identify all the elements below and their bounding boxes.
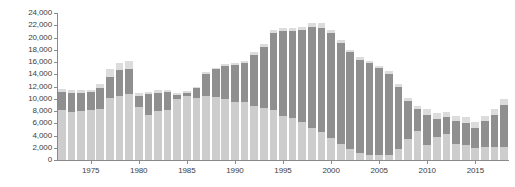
bar-segment-top xyxy=(298,27,306,30)
y-tick-label: 20,000 xyxy=(28,34,52,42)
bar-segment-middle xyxy=(481,121,489,147)
bar-segment-bottom xyxy=(366,155,374,161)
bar-segment-middle xyxy=(116,70,124,96)
bar-segment-middle xyxy=(356,60,364,153)
bar xyxy=(260,44,268,160)
bar xyxy=(87,90,95,160)
y-tick-label: 0 xyxy=(48,156,52,164)
bar-segment-top xyxy=(221,64,229,66)
bar-segment-top xyxy=(404,98,412,100)
x-tick-label: 1995 xyxy=(263,167,303,175)
x-tick-label: 2005 xyxy=(359,167,399,175)
x-tick-label: 1985 xyxy=(167,167,207,175)
bar xyxy=(356,57,364,160)
bar xyxy=(164,90,172,160)
bar-segment-middle xyxy=(145,94,153,115)
bar-segment-middle xyxy=(260,47,268,108)
bar-segment-bottom xyxy=(193,98,201,160)
bar-segment-middle xyxy=(318,28,326,132)
bar-segment-middle xyxy=(77,93,85,111)
bar-segment-middle xyxy=(298,30,306,122)
bar-segment-top xyxy=(500,99,508,105)
bar-segment-bottom xyxy=(135,107,143,160)
bar-segment-middle xyxy=(183,93,191,96)
bar-segment-top xyxy=(135,93,143,95)
y-tick-label: 24,000 xyxy=(28,9,52,17)
bar-segment-bottom xyxy=(96,109,104,160)
bar-segment-middle xyxy=(279,31,287,116)
bar xyxy=(77,90,85,160)
bar-segment-top xyxy=(366,61,374,63)
bar-segment-middle xyxy=(241,63,249,102)
bar-segment-top xyxy=(241,61,249,63)
bar-segment-bottom xyxy=(404,139,412,160)
bar-segment-middle xyxy=(385,74,393,155)
x-tick-mark xyxy=(427,161,428,164)
bar-segment-top xyxy=(212,68,220,70)
bar-segment-bottom xyxy=(221,99,229,160)
bar xyxy=(308,23,316,160)
bar-segment-top xyxy=(125,61,133,69)
bar-segment-bottom xyxy=(106,98,114,160)
bar-segment-top xyxy=(154,90,162,92)
bar xyxy=(250,52,258,160)
bar-segment-bottom xyxy=(433,137,441,160)
bar-segment-bottom xyxy=(298,122,306,160)
y-tick-label: 10,000 xyxy=(28,95,52,103)
bar-segment-top xyxy=(452,116,460,122)
bar xyxy=(471,122,479,160)
y-tick-label: 4,000 xyxy=(32,132,52,140)
bar xyxy=(500,99,508,160)
bar xyxy=(346,50,354,160)
bar-segment-middle xyxy=(327,33,335,138)
bar-segment-middle xyxy=(193,88,201,98)
bar xyxy=(298,27,306,160)
x-tick-label: 2000 xyxy=(311,167,351,175)
bar-segment-top xyxy=(77,90,85,92)
bar-segment-bottom xyxy=(481,147,489,160)
bar xyxy=(221,64,229,160)
bar-segment-middle xyxy=(221,66,229,99)
bar-segment-middle xyxy=(346,52,354,149)
bar-segment-top xyxy=(289,28,297,31)
bar-segment-bottom xyxy=(125,94,133,160)
bar-segment-bottom xyxy=(423,145,431,160)
bar-segment-bottom xyxy=(260,108,268,160)
bar-segment-middle xyxy=(308,27,316,127)
bar-segment-top xyxy=(96,84,104,88)
bar-segment-top xyxy=(337,40,345,43)
y-tick-label: 12,000 xyxy=(28,83,52,91)
bar-segment-top xyxy=(471,122,479,128)
bar-segment-bottom xyxy=(241,102,249,160)
bar-segment-bottom xyxy=(202,96,210,160)
bar-segment-bottom xyxy=(471,148,479,160)
bar-segment-bottom xyxy=(327,138,335,160)
x-tick-mark xyxy=(139,161,140,164)
bar-segment-top xyxy=(193,87,201,89)
y-tick-label: 14,000 xyxy=(28,70,52,78)
x-tick-label: 2015 xyxy=(455,167,495,175)
bar-segment-bottom xyxy=(443,134,451,160)
bar-segment-bottom xyxy=(183,96,191,160)
bar-segment-bottom xyxy=(270,110,278,160)
bar-segment-bottom xyxy=(87,110,95,160)
bar-segment-top xyxy=(231,63,239,65)
bar xyxy=(241,61,249,160)
bar-segment-bottom xyxy=(77,111,85,160)
bar xyxy=(202,72,210,160)
bar-segment-top xyxy=(375,66,383,68)
bar-segment-middle xyxy=(154,93,162,111)
bar-segment-top xyxy=(462,117,470,123)
bar xyxy=(58,89,66,160)
bar-segment-top xyxy=(260,44,268,47)
bar xyxy=(414,106,422,160)
bar xyxy=(433,113,441,160)
x-tick-label: 1990 xyxy=(215,167,255,175)
x-tick-mark xyxy=(91,161,92,164)
bar xyxy=(96,84,104,160)
bar-segment-top xyxy=(145,92,153,94)
y-tick-label: 18,000 xyxy=(28,46,52,54)
bar-segment-top xyxy=(414,106,422,108)
bar-segment-top xyxy=(308,23,316,27)
stacked-bar-chart: 24,00022,00020,00018,00016,00014,00012,0… xyxy=(0,0,515,187)
